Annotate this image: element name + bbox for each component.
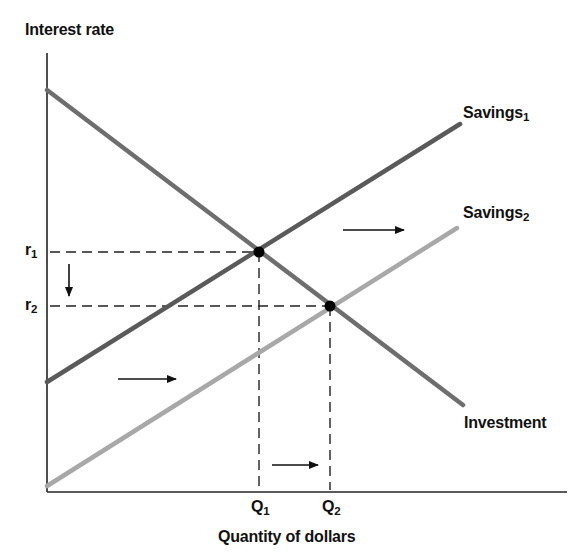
y-axis-label: Interest rate xyxy=(25,21,114,39)
q2-symbol: Q xyxy=(322,498,334,515)
savings2-label-text: Savings xyxy=(463,204,523,221)
savings1-curve xyxy=(47,124,460,382)
savings-investment-diagram xyxy=(0,0,571,555)
r1-tick-label: r1 xyxy=(25,241,37,260)
savings2-label: Savings2 xyxy=(463,204,529,223)
r1-sub: 1 xyxy=(31,248,37,260)
q2-sub: 2 xyxy=(334,505,340,517)
q1-tick-label: Q1 xyxy=(251,498,269,517)
q1-symbol: Q xyxy=(251,498,263,515)
savings1-label-text: Savings xyxy=(463,104,523,121)
equilibrium-point-1 xyxy=(254,247,265,258)
r2-tick-label: r2 xyxy=(25,296,37,315)
savings2-label-sub: 2 xyxy=(523,211,529,223)
investment-label: Investment xyxy=(464,414,546,432)
savings1-label: Savings1 xyxy=(463,104,529,123)
r2-sub: 2 xyxy=(31,303,37,315)
equilibrium-point-2 xyxy=(325,301,336,312)
savings1-label-sub: 1 xyxy=(523,111,529,123)
q2-tick-label: Q2 xyxy=(322,498,340,517)
x-axis-label: Quantity of dollars xyxy=(218,528,356,546)
q1-sub: 1 xyxy=(263,505,269,517)
savings2-curve xyxy=(47,228,457,486)
